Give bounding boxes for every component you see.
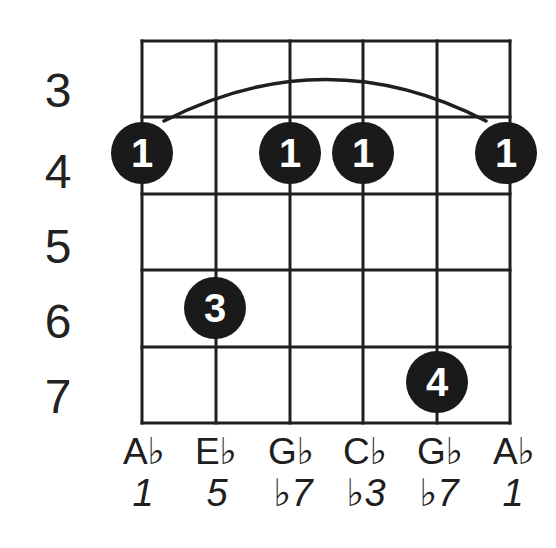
fret-label: 7 — [45, 373, 72, 421]
finger-dot: 4 — [406, 351, 468, 413]
note-label: G♭ — [268, 433, 314, 470]
note-label: E♭ — [195, 433, 237, 470]
finger-dot: 3 — [184, 277, 246, 339]
degree-label: 1 — [502, 474, 523, 512]
finger-dot: 1 — [111, 122, 173, 184]
degree-label: 5 — [206, 474, 227, 512]
finger-dot: 1 — [259, 122, 321, 184]
note-label: A♭ — [123, 433, 165, 470]
degree-label: ♭7 — [273, 474, 312, 512]
degree-label: 1 — [132, 474, 153, 512]
finger-dot: 1 — [332, 122, 394, 184]
note-label: G♭ — [417, 433, 463, 470]
finger-dot: 1 — [475, 122, 537, 184]
fret-label: 4 — [45, 148, 72, 196]
note-label: C♭ — [343, 433, 387, 470]
fret-label: 3 — [45, 67, 72, 115]
fret-label: 6 — [45, 298, 72, 346]
chord-diagram: 3 4 5 6 7 1 1 1 1 3 4 A♭ E♭ G♭ C♭ G♭ A♭ … — [0, 0, 556, 548]
degree-label: ♭7 — [419, 474, 458, 512]
note-label: A♭ — [493, 433, 535, 470]
degree-label: ♭3 — [346, 474, 385, 512]
fret-label: 5 — [45, 223, 72, 271]
